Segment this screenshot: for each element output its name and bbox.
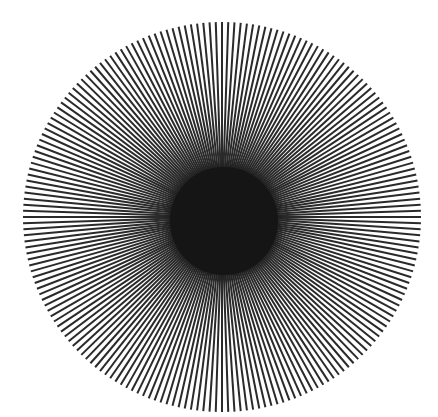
center-disc-core	[170, 167, 278, 275]
radial-lines-diagram	[0, 0, 438, 417]
starburst-figure	[0, 0, 438, 417]
